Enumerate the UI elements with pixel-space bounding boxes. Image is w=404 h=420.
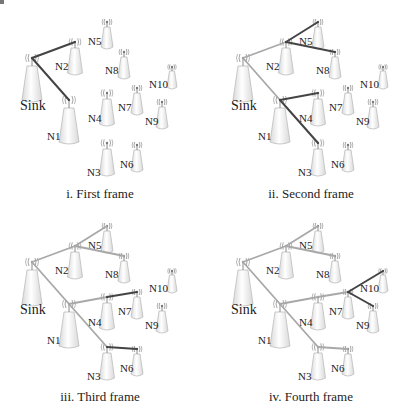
node-label-sink: Sink — [20, 98, 46, 113]
tower-icon-n1 — [270, 300, 290, 348]
caption-fourth: iv. Fourth frame — [211, 389, 404, 405]
tower-icon-n5 — [312, 223, 324, 253]
node-label-n4: N4 — [299, 112, 313, 124]
node-label-n2: N2 — [55, 60, 68, 72]
link-sink-n2 — [32, 246, 75, 262]
tower-icon-n1 — [59, 96, 79, 144]
network-diagram-second: SinkN1N2N3N4N5N6N7N8N9N10 — [211, 0, 404, 190]
node-label-sink: Sink — [231, 98, 257, 113]
tower-icon-n8 — [329, 49, 341, 79]
node-label-n6: N6 — [331, 362, 345, 374]
node-label-n3: N3 — [298, 370, 312, 382]
node-label-n8: N8 — [316, 268, 330, 280]
tower-icon-n3 — [311, 139, 326, 176]
node-label-n10: N10 — [149, 282, 168, 294]
node-label-n8: N8 — [105, 64, 119, 76]
tower-icon-n5 — [101, 223, 113, 253]
caption-second: ii. Second frame — [211, 186, 404, 202]
link-sink-n2 — [243, 42, 286, 58]
node-label-n9: N9 — [356, 319, 370, 331]
tower-icon-n10 — [378, 64, 388, 89]
tower-icon-n7 — [342, 85, 354, 115]
frame-fourth: SinkN1N2N3N4N5N6N7N8N9N10 iv. Fourth fra… — [211, 204, 404, 410]
link-sink-n2 — [243, 246, 286, 262]
node-label-n8: N8 — [105, 268, 119, 280]
tower-icon-sink — [233, 54, 253, 102]
node-label-n2: N2 — [266, 60, 279, 72]
node-label-n9: N9 — [356, 115, 370, 127]
node-label-n6: N6 — [331, 158, 345, 170]
node-label-n8: N8 — [316, 64, 330, 76]
node-label-n3: N3 — [87, 370, 101, 382]
tower-icon-n10 — [167, 64, 177, 89]
node-label-n1: N1 — [47, 130, 60, 142]
tower-icon-n3 — [311, 343, 326, 380]
node-label-n2: N2 — [266, 264, 279, 276]
node-label-n4: N4 — [88, 316, 102, 328]
tower-icon-n7 — [131, 85, 143, 115]
tower-icon-n8 — [118, 49, 130, 79]
node-label-n1: N1 — [258, 334, 271, 346]
network-diagram-fourth: SinkN1N2N3N4N5N6N7N8N9N10 — [211, 204, 404, 394]
frame-second: SinkN1N2N3N4N5N6N7N8N9N10 ii. Second fra… — [211, 0, 404, 206]
tower-icon-n10 — [167, 268, 177, 293]
node-label-n4: N4 — [88, 112, 102, 124]
node-label-n6: N6 — [120, 362, 134, 374]
tower-icon-n1 — [270, 96, 290, 144]
node-label-n10: N10 — [149, 78, 168, 90]
node-label-n5: N5 — [88, 35, 102, 47]
tower-icon-n1 — [59, 300, 79, 348]
tower-icon-n5 — [101, 19, 113, 49]
node-label-n4: N4 — [299, 316, 313, 328]
node-label-n7: N7 — [118, 101, 132, 113]
tower-icon-n4 — [311, 293, 326, 330]
tower-icon-sink — [22, 54, 42, 102]
tower-icon-sink — [233, 258, 253, 306]
tower-icon-n8 — [118, 253, 130, 283]
tower-icon-n3 — [100, 343, 115, 380]
tower-icon-n8 — [329, 253, 341, 283]
node-label-n3: N3 — [87, 166, 101, 178]
caption-first: i. First frame — [0, 186, 200, 202]
node-label-n9: N9 — [145, 319, 159, 331]
node-label-n1: N1 — [258, 130, 271, 142]
network-diagram-third: SinkN1N2N3N4N5N6N7N8N9N10 — [0, 204, 200, 394]
node-label-n1: N1 — [47, 334, 60, 346]
tower-icon-n4 — [100, 293, 115, 330]
node-label-n6: N6 — [120, 158, 134, 170]
tower-icon-n4 — [100, 89, 115, 126]
frame-third: SinkN1N2N3N4N5N6N7N8N9N10 iii. Third fra… — [0, 204, 200, 410]
link-sink-n2 — [32, 42, 75, 58]
tower-icon-n3 — [100, 139, 115, 176]
node-label-n7: N7 — [329, 305, 343, 317]
node-label-n7: N7 — [118, 305, 132, 317]
node-label-n10: N10 — [360, 78, 379, 90]
node-label-n9: N9 — [145, 115, 159, 127]
node-label-n3: N3 — [298, 166, 312, 178]
network-diagram-first: SinkN1N2N3N4N5N6N7N8N9N10 — [0, 0, 200, 190]
node-label-sink: Sink — [231, 302, 257, 317]
node-label-sink: Sink — [20, 302, 46, 317]
tower-icon-sink — [22, 258, 42, 306]
frame-first: SinkN1N2N3N4N5N6N7N8N9N10 i. First frame — [0, 0, 200, 206]
node-label-n2: N2 — [55, 264, 68, 276]
node-label-n7: N7 — [329, 101, 343, 113]
links-layer — [32, 226, 137, 349]
caption-third: iii. Third frame — [0, 389, 200, 405]
